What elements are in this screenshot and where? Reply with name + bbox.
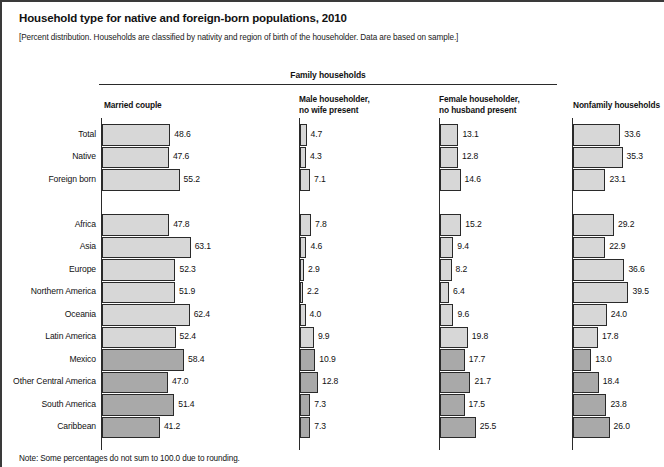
bar <box>573 417 610 439</box>
bar <box>102 282 175 304</box>
bar <box>573 169 605 191</box>
bar <box>573 147 623 169</box>
bar <box>102 327 176 349</box>
bar-value-label: 4.3 <box>310 151 322 161</box>
bar <box>440 124 458 146</box>
bar-value-label: 7.1 <box>314 174 326 184</box>
bar-value-label: 36.6 <box>628 264 644 274</box>
bar <box>102 237 191 259</box>
bar <box>102 214 169 236</box>
bar <box>300 259 304 281</box>
row-label-south-america: South America <box>41 399 96 409</box>
bar <box>440 237 453 259</box>
bar-value-label: 7.8 <box>315 219 327 229</box>
bar <box>440 394 465 416</box>
bar <box>102 394 174 416</box>
bar-value-label: 63.1 <box>195 241 211 251</box>
bar <box>300 237 306 259</box>
bar-value-label: 47.8 <box>173 219 189 229</box>
bar <box>102 169 180 191</box>
column-header-line: no husband present <box>439 105 520 116</box>
row-label-caribbean: Caribbean <box>57 421 96 431</box>
bar <box>102 124 170 146</box>
bar <box>102 417 160 439</box>
bar-value-label: 58.4 <box>188 354 204 364</box>
bar-value-label: 25.5 <box>480 421 496 431</box>
bar-value-label: 18.4 <box>603 376 619 386</box>
row-label-asia: Asia <box>80 241 96 251</box>
bar-value-label: 26.0 <box>614 421 630 431</box>
bar-value-label: 17.5 <box>469 399 485 409</box>
bar-value-label: 39.5 <box>632 286 648 296</box>
chart-plot-area: Married coupleMale householder,no wife p… <box>2 2 664 467</box>
bar <box>300 372 318 394</box>
bar-value-label: 12.8 <box>462 151 478 161</box>
bar <box>440 327 468 349</box>
bar <box>300 417 310 439</box>
bar-value-label: 7.3 <box>314 421 326 431</box>
bar <box>300 327 314 349</box>
column-header-line: Female householder, <box>439 94 520 105</box>
row-label-mexico: Mexico <box>69 354 96 364</box>
bar-value-label: 12.8 <box>322 376 338 386</box>
bar <box>573 124 620 146</box>
bar-value-label: 47.6 <box>173 151 189 161</box>
bar-value-label: 35.3 <box>627 151 643 161</box>
bar-value-label: 10.9 <box>319 354 335 364</box>
bar-value-label: 13.1 <box>462 129 478 139</box>
bar-value-label: 7.3 <box>314 399 326 409</box>
figure-panel: Household type for native and foreign-bo… <box>0 0 664 467</box>
bar-value-label: 29.2 <box>618 219 634 229</box>
bar-value-label: 48.6 <box>174 129 190 139</box>
bar-value-label: 19.8 <box>472 331 488 341</box>
bar <box>102 349 184 371</box>
row-label-other-central-america: Other Central America <box>13 376 96 386</box>
row-label-europe: Europe <box>69 264 96 274</box>
bar <box>573 327 598 349</box>
bar-value-label: 23.1 <box>609 174 625 184</box>
column-header-line: Married couple <box>104 100 162 111</box>
bar-value-label: 47.0 <box>172 376 188 386</box>
bar-value-label: 2.2 <box>307 286 319 296</box>
figure-note: Note: Some percentages do not sum to 100… <box>19 454 240 463</box>
column-header-married-couple: Married couple <box>104 100 162 111</box>
bar-value-label: 52.4 <box>180 331 196 341</box>
bar-value-label: 51.4 <box>178 399 194 409</box>
row-label-total: Total <box>78 129 96 139</box>
bar <box>300 124 307 146</box>
column-header-line: no wife present <box>299 105 370 116</box>
bar-value-label: 24.0 <box>611 309 627 319</box>
bar <box>573 372 599 394</box>
bar <box>573 394 606 416</box>
bar-value-label: 52.3 <box>179 264 195 274</box>
row-label-foreign-born: Foreign born <box>48 174 96 184</box>
bar-value-label: 55.2 <box>184 174 200 184</box>
bar-value-label: 2.9 <box>308 264 320 274</box>
bar-value-label: 21.7 <box>474 376 490 386</box>
row-label-africa: Africa <box>75 219 96 229</box>
bar <box>573 304 607 326</box>
bar <box>102 147 169 169</box>
bar-value-label: 13.0 <box>595 354 611 364</box>
column-header-male-householder-no-wife-present: Male householder,no wife present <box>299 94 370 116</box>
bar <box>440 282 449 304</box>
bar-value-label: 4.0 <box>310 309 322 319</box>
bar <box>300 169 310 191</box>
bar <box>573 259 624 281</box>
bar-value-label: 17.7 <box>469 354 485 364</box>
bar <box>300 282 303 304</box>
bar-value-label: 9.9 <box>318 331 330 341</box>
bar <box>300 304 306 326</box>
bar-value-label: 62.4 <box>194 309 210 319</box>
row-label-latin-america: Latin America <box>45 331 96 341</box>
bar <box>573 349 591 371</box>
bar-value-label: 51.9 <box>179 286 195 296</box>
bar-value-label: 23.8 <box>610 399 626 409</box>
bar-value-label: 9.4 <box>457 241 469 251</box>
column-header-female-householder-no-husband-present: Female householder,no husband present <box>439 94 520 116</box>
bar-value-label: 22.9 <box>609 241 625 251</box>
bar <box>440 417 476 439</box>
bar <box>573 214 614 236</box>
bar <box>102 259 175 281</box>
bar <box>440 349 465 371</box>
